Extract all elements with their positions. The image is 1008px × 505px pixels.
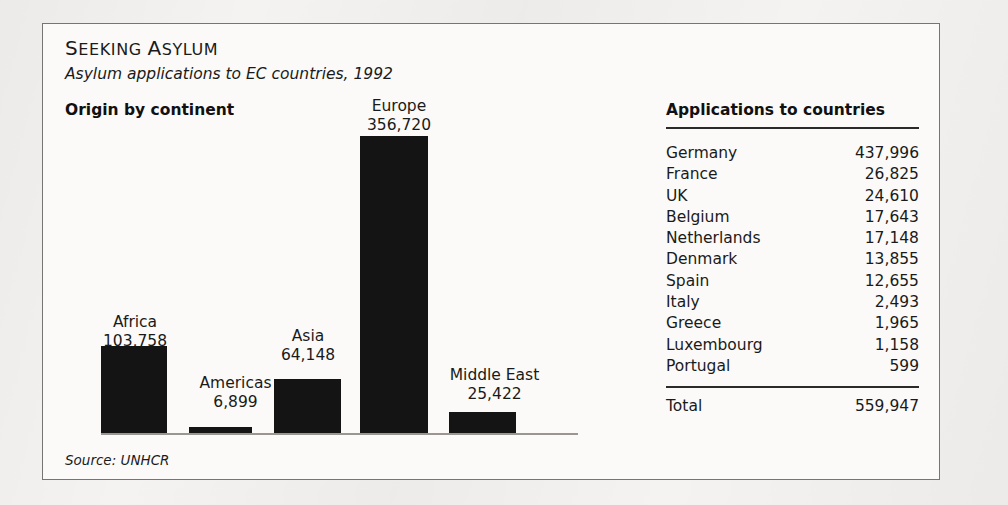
table-cell-country: Denmark <box>666 249 737 270</box>
table-row: Portugal 599 <box>666 356 919 377</box>
table-row: Germany 437,996 <box>666 143 919 164</box>
table-cell-value: 437,996 <box>855 143 919 164</box>
bar-europe <box>360 136 428 433</box>
bar-label-africa-name: Africa <box>89 313 181 332</box>
chart-baseline-axis <box>101 433 578 435</box>
table-title: Applications to countries <box>666 101 919 119</box>
bar-label-asia-name: Asia <box>262 327 354 346</box>
bar-label-asia: Asia 64,148 <box>262 327 354 364</box>
table-cell-country: Greece <box>666 313 721 334</box>
table-cell-country: Spain <box>666 271 709 292</box>
table-cell-country: France <box>666 164 718 185</box>
bar-label-middle-east-value: 25,422 <box>423 385 566 404</box>
table-cell-country: Portugal <box>666 356 730 377</box>
table-cell-value: 24,610 <box>865 186 919 207</box>
table-cell-value: 1,158 <box>875 335 919 356</box>
bar-label-europe: Europe 356,720 <box>344 97 454 134</box>
table-cell-value: 26,825 <box>865 164 919 185</box>
table-row: Spain 12,655 <box>666 271 919 292</box>
table-cell-value: 13,855 <box>865 249 919 270</box>
table-total-value: 559,947 <box>855 397 919 415</box>
table-cell-country: Belgium <box>666 207 730 228</box>
table-cell-country: UK <box>666 186 688 207</box>
bar-chart: Africa 103,758 Americas 6,899 Asia 64,14… <box>43 24 583 481</box>
table-row: Netherlands 17,148 <box>666 228 919 249</box>
source-note: Source: UNHCR <box>65 452 169 468</box>
bar-middle-east <box>449 412 516 433</box>
table-cell-country: Italy <box>666 292 700 313</box>
applications-table: Applications to countries Germany 437,99… <box>666 101 919 415</box>
table-row: Luxembourg 1,158 <box>666 335 919 356</box>
table-body: Germany 437,996 France 26,825 UK 24,610 … <box>666 143 919 377</box>
table-cell-country: Luxembourg <box>666 335 763 356</box>
table-row: Denmark 13,855 <box>666 249 919 270</box>
bar-label-africa: Africa 103,758 <box>89 313 181 350</box>
bar-label-middle-east-name: Middle East <box>423 366 566 385</box>
bar-label-europe-name: Europe <box>344 97 454 116</box>
table-cell-value: 17,148 <box>865 228 919 249</box>
table-total-row: Total 559,947 <box>666 397 919 415</box>
table-cell-country: Germany <box>666 143 737 164</box>
table-cell-country: Netherlands <box>666 228 760 249</box>
bar-label-europe-value: 356,720 <box>344 116 454 135</box>
bar-asia <box>274 379 341 433</box>
table-total-label: Total <box>666 397 702 415</box>
table-total-rule <box>666 386 919 388</box>
table-row: UK 24,610 <box>666 186 919 207</box>
table-cell-value: 1,965 <box>875 313 919 334</box>
table-cell-value: 12,655 <box>865 271 919 292</box>
table-row: Italy 2,493 <box>666 292 919 313</box>
table-cell-value: 17,643 <box>865 207 919 228</box>
table-cell-value: 2,493 <box>875 292 919 313</box>
table-row: Greece 1,965 <box>666 313 919 334</box>
table-header-rule <box>666 127 919 129</box>
table-cell-value: 599 <box>889 356 919 377</box>
bar-label-middle-east: Middle East 25,422 <box>423 366 566 403</box>
bar-label-asia-value: 64,148 <box>262 346 354 365</box>
table-row: France 26,825 <box>666 164 919 185</box>
figure-container: SEEKING ASYLUM Asylum applications to EC… <box>42 23 940 480</box>
bar-africa <box>101 346 167 433</box>
table-row: Belgium 17,643 <box>666 207 919 228</box>
